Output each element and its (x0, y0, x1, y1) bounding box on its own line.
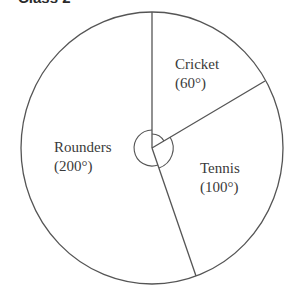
angle-arc-rounders (134, 130, 158, 166)
angle-arc-tennis (159, 137, 173, 168)
slice-label-cricket: Cricket (60°) (175, 55, 219, 93)
slice-value-tennis: (100°) (200, 178, 240, 197)
slice-name-tennis: Tennis (200, 159, 240, 178)
angle-arc-cricket (152, 134, 164, 141)
pie-chart (0, 0, 297, 299)
slice-name-rounders: Rounders (54, 138, 112, 157)
spoke-tennis-rounders (152, 148, 196, 276)
slice-label-tennis: Tennis (100°) (200, 159, 240, 197)
slice-value-cricket: (60°) (175, 74, 219, 93)
slice-label-rounders: Rounders (200°) (54, 138, 112, 176)
slice-name-cricket: Cricket (175, 55, 219, 74)
slice-value-rounders: (200°) (54, 157, 112, 176)
